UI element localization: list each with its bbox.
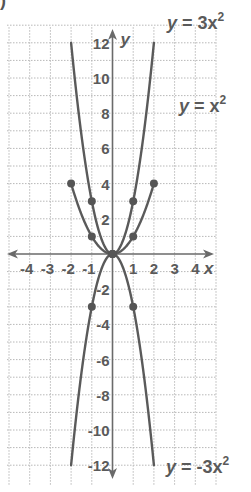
x-tick-label: -4	[20, 260, 34, 277]
data-point	[129, 232, 137, 240]
y-axis-label: y	[120, 30, 132, 49]
x-tick-label: 2	[150, 260, 158, 277]
x-tick-label: 4	[191, 260, 200, 277]
y-tick-label: 4	[101, 176, 110, 193]
x-tick-label: -1	[82, 260, 95, 277]
data-point	[129, 197, 137, 205]
x-tick-label: -3	[41, 260, 54, 277]
data-point	[88, 197, 96, 205]
y-tick-label: 2	[101, 211, 109, 228]
y-tick-label: -6	[96, 352, 109, 369]
y-tick-label: -4	[96, 316, 110, 333]
y-tick-label: 12	[93, 35, 110, 52]
data-point	[109, 250, 117, 258]
y-tick-label: -12	[88, 457, 110, 474]
y-tick-label: -8	[96, 387, 109, 404]
chart-plot: -4-3-2-11234-12-10-8-6-4-224681012xy y =…	[0, 0, 251, 492]
data-point	[129, 303, 137, 311]
data-point	[88, 303, 96, 311]
x-tick-label: 3	[170, 260, 178, 277]
y-tick-label: 6	[101, 140, 109, 157]
equation-label: y = x2	[178, 93, 227, 116]
y-tick-label: -10	[88, 422, 110, 439]
x-axis-label: x	[203, 259, 215, 278]
equation-label: y = -3x2	[165, 454, 230, 477]
data-point	[88, 232, 96, 240]
equation-label: y = 3x2	[166, 10, 225, 33]
y-tick-label: 10	[93, 70, 110, 87]
x-tick-label: 1	[129, 260, 137, 277]
y-tick-label: 8	[101, 105, 109, 122]
data-point	[150, 180, 158, 188]
x-tick-label: -2	[61, 260, 74, 277]
data-point	[67, 180, 75, 188]
